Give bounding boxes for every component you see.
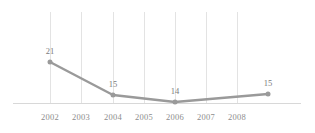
x-tick-label-2006: 2006: [166, 112, 184, 122]
data-point-marker-3: [266, 92, 271, 97]
data-point-label-2: 14: [171, 86, 180, 96]
plot-area: 21151415 2002200320042005200620072008: [0, 0, 315, 133]
data-point-marker-1: [111, 93, 116, 98]
series-line: [50, 62, 268, 102]
data-point-marker-2: [173, 100, 178, 105]
data-point-marker-0: [48, 60, 53, 65]
x-tick-label-2003: 2003: [72, 112, 90, 122]
data-point-label-1: 15: [109, 79, 118, 89]
data-point-label-3: 15: [264, 78, 273, 88]
x-tick-label-2008: 2008: [228, 112, 246, 122]
x-tick-label-2004: 2004: [104, 112, 122, 122]
line-chart: 21151415 2002200320042005200620072008: [0, 0, 315, 133]
x-tick-label-2005: 2005: [135, 112, 153, 122]
data-point-label-0: 21: [46, 46, 55, 56]
x-tick-label-2002: 2002: [41, 112, 59, 122]
x-tick-label-2007: 2007: [197, 112, 215, 122]
